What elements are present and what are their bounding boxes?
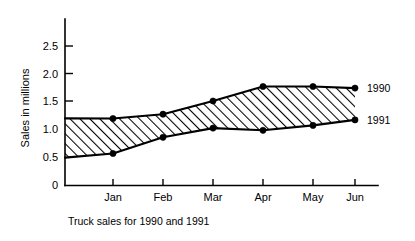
data-point-1991-mar	[210, 125, 216, 131]
data-point-1991-jan	[110, 150, 116, 156]
data-point-1991-apr	[260, 127, 266, 133]
x-tick-label-jun: Jun	[346, 191, 364, 203]
data-point-1991-may	[310, 122, 316, 128]
x-tick-label-feb: Feb	[154, 191, 173, 203]
data-point-1991-jun	[352, 117, 358, 123]
y-tick-label-1.5: 1.5	[43, 95, 58, 107]
data-point-1990-jun	[352, 85, 358, 91]
chart-figure: 2.5 2.0 1.5 1.0 0.5 0 Jan Feb Mar Apr Ma…	[0, 0, 415, 241]
x-tick-label-apr: Apr	[254, 191, 271, 203]
data-point-1990-apr	[260, 83, 266, 89]
x-tick-label-jan: Jan	[104, 191, 122, 203]
y-tick-label-1.0: 1.0	[43, 123, 58, 135]
data-point-1990-jan	[110, 115, 116, 121]
data-point-1990-may	[310, 83, 316, 89]
chart-caption: Truck sales for 1990 and 1991	[68, 215, 210, 227]
y-tick-label-2.5: 2.5	[43, 40, 58, 52]
x-tick-label-mar: Mar	[204, 191, 223, 203]
data-point-1990-feb	[160, 111, 166, 117]
data-point-1991-feb	[160, 134, 166, 140]
truck-sales-area-chart: 2.5 2.0 1.5 1.0 0.5 0 Jan Feb Mar Apr Ma…	[0, 0, 415, 241]
series-label-1991: 1991	[367, 114, 391, 126]
y-axis-title: Sales in millions	[19, 68, 31, 147]
y-tick-label-0.5: 0.5	[43, 151, 58, 163]
series-label-1990: 1990	[367, 82, 391, 94]
y-tick-label-0: 0	[52, 179, 58, 191]
data-point-1990-mar	[210, 98, 216, 104]
series-band-fill	[65, 87, 355, 158]
x-tick-label-may: May	[303, 191, 324, 203]
y-tick-label-2.0: 2.0	[43, 68, 58, 80]
